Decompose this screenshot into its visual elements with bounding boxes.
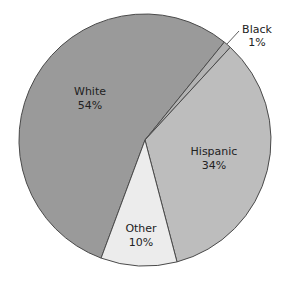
label-hispanic-value: 34% [202, 159, 226, 172]
label-hispanic-name: Hispanic [191, 145, 238, 158]
label-white-name: White [74, 85, 106, 98]
label-black-name: Black [242, 23, 272, 36]
label-other-value: 10% [129, 236, 153, 249]
label-white-value: 54% [78, 99, 102, 112]
label-black-value: 1% [248, 36, 265, 49]
label-other-name: Other [125, 222, 157, 235]
black-leader-line [227, 31, 239, 44]
pie-chart: White 54% Black 1% Hispanic 34% Other 10… [0, 0, 290, 283]
